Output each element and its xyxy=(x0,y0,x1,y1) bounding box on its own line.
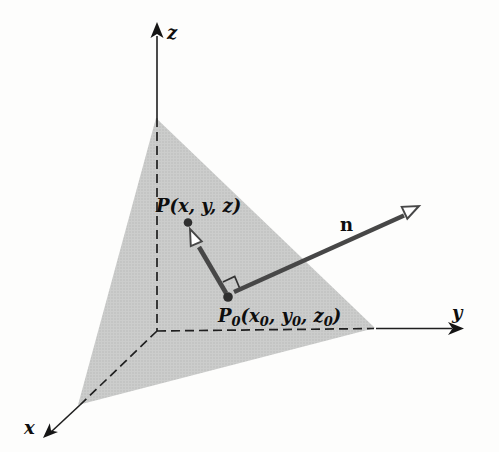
x-axis-arrowhead-icon xyxy=(43,423,58,438)
x-axis-label: x xyxy=(23,417,35,438)
p0-label-seg: , z xyxy=(300,305,325,326)
normal-vector-label: n xyxy=(340,214,353,235)
plane-surface xyxy=(78,118,375,405)
p0-label-sub: 0 xyxy=(292,314,301,329)
p0-label-sub: 0 xyxy=(324,314,333,329)
p0-label-sub: 0 xyxy=(260,314,269,329)
p0-label-seg: (x xyxy=(241,305,261,326)
p0-label-sub: 0 xyxy=(232,314,241,329)
y-axis-label: y xyxy=(451,302,464,323)
p0-label-P: P xyxy=(217,305,232,326)
plane-normal-vector-figure: z y x n P(x, y, z) P0(x0, y0, z0) xyxy=(0,0,499,452)
point-p-label: P(x, y, z) xyxy=(155,195,241,216)
p0-label-seg: ) xyxy=(332,305,342,326)
z-axis-label: z xyxy=(166,22,178,43)
point-p-dot xyxy=(184,218,193,227)
point-p0-dot xyxy=(223,292,233,302)
z-axis-arrowhead-icon xyxy=(151,22,164,38)
x-axis-line xyxy=(51,405,80,432)
p0-label-seg: , y xyxy=(268,305,294,326)
